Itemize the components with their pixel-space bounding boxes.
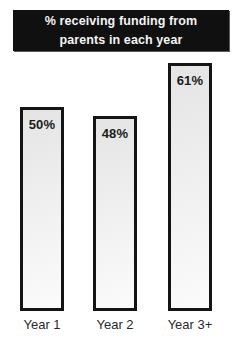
bar-value-label-year-1: 50% [29,117,56,132]
x-axis-label-year-2: Year 2 [80,317,150,332]
bar-year-1: 50% [20,107,64,311]
bar-year-2: 48% [93,116,137,311]
plot-area: 50% 48% 61% Year 1 Year 2 Year 3+ [0,0,238,345]
funding-bar-chart: % receiving funding from parents in each… [0,0,238,345]
bar-year-3plus: 61% [168,63,212,311]
bar-value-label-year-3plus: 61% [177,73,204,88]
x-axis-label-year-1: Year 1 [7,317,77,332]
x-axis-label-year-3plus: Year 3+ [155,317,225,332]
bar-value-label-year-2: 48% [102,126,129,141]
